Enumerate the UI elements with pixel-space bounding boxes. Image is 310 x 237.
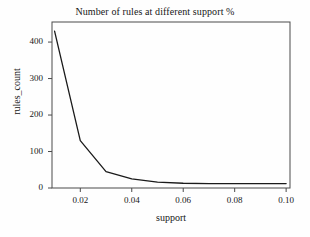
x-tick-label: 0.10 xyxy=(266,195,306,205)
data-series-line xyxy=(55,31,287,184)
y-tick-marks xyxy=(48,42,52,188)
y-tick-label: 100 xyxy=(13,146,43,156)
y-tick-label: 200 xyxy=(13,109,43,119)
y-tick-label: 0 xyxy=(13,182,43,192)
x-axis-label: support xyxy=(52,212,290,223)
plot-area xyxy=(0,0,310,237)
plot-frame xyxy=(52,22,290,188)
y-tick-label: 400 xyxy=(13,36,43,46)
y-tick-label: 300 xyxy=(13,73,43,83)
x-tick-label: 0.04 xyxy=(112,195,152,205)
x-tick-label: 0.06 xyxy=(163,195,203,205)
x-tick-marks xyxy=(80,188,286,192)
x-tick-label: 0.08 xyxy=(215,195,255,205)
chart-figure: Number of rules at different support % r… xyxy=(0,0,310,237)
x-tick-label: 0.02 xyxy=(60,195,100,205)
